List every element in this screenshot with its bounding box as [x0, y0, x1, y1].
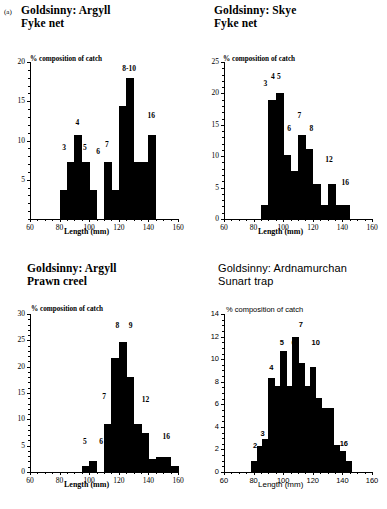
y-tick-major	[221, 382, 224, 383]
x-tick-minor	[320, 219, 321, 221]
panel-b-title: Goldsinny: Skye Fyke net	[214, 4, 296, 30]
y-tick-minor	[28, 404, 30, 405]
x-tick-minor	[67, 219, 68, 221]
x-tick-minor	[111, 219, 112, 221]
x-tick-minor	[126, 472, 127, 474]
y-tick-label: 20	[18, 57, 26, 66]
x-tick-minor	[163, 472, 164, 474]
x-tick-minor	[126, 219, 127, 221]
y-tick-minor	[28, 325, 30, 326]
y-tick-major	[221, 62, 224, 63]
y-tick-minor	[28, 125, 30, 126]
x-tick-minor	[328, 472, 329, 474]
x-tick-minor	[305, 219, 306, 221]
bar-annotation: 4	[68, 118, 86, 127]
bar-annotation: 12	[320, 155, 338, 164]
x-tick-minor	[52, 219, 53, 221]
x-tick-label: 120	[107, 223, 131, 232]
panel-d-title: Goldsinny: Ardnamurchan Sunart trap	[218, 262, 347, 288]
bar-annotation: 4	[262, 363, 280, 372]
x-tick-minor	[291, 219, 292, 221]
x-tick-minor	[276, 219, 277, 221]
x-tick-major	[254, 472, 255, 475]
x-tick-minor	[365, 472, 366, 474]
y-tick-label: 0	[215, 467, 219, 476]
x-tick-label: 60	[18, 223, 42, 232]
x-tick-major	[224, 472, 225, 475]
x-tick-minor	[97, 219, 98, 221]
y-tick-label: 12	[211, 332, 219, 341]
x-tick-label: 100	[77, 476, 101, 485]
y-tick-major	[221, 359, 224, 360]
bar-annotation: 6	[285, 338, 303, 347]
y-tick-minor	[28, 156, 30, 157]
x-tick-label: 140	[136, 223, 160, 232]
y-tick-label: 15	[18, 96, 26, 105]
bar-annotation: 3	[55, 143, 73, 152]
panel-b-plot: 051015202560801001201401603456781216	[224, 62, 372, 219]
x-tick-minor	[37, 472, 38, 474]
chart-panel-d: Goldsinny: Ardnamurchan Sunart trap % co…	[196, 258, 387, 509]
y-tick-major	[27, 141, 30, 142]
x-tick-label: 140	[330, 223, 354, 232]
x-tick-minor	[171, 219, 172, 221]
x-tick-major	[283, 472, 284, 475]
y-tick-major	[27, 419, 30, 420]
x-tick-label: 60	[212, 476, 236, 485]
x-tick-major	[60, 472, 61, 475]
y-tick-minor	[28, 335, 30, 336]
y-tick-major	[27, 446, 30, 447]
x-tick-label: 80	[48, 476, 72, 485]
x-tick-minor	[298, 219, 299, 221]
x-tick-minor	[291, 472, 292, 474]
x-tick-minor	[357, 219, 358, 221]
x-tick-minor	[134, 472, 135, 474]
y-tick-minor	[28, 188, 30, 189]
y-tick-label: 30	[18, 309, 26, 318]
y-tick-minor	[28, 388, 30, 389]
y-tick-minor	[222, 144, 224, 145]
x-tick-minor	[82, 472, 83, 474]
x-tick-minor	[141, 219, 142, 221]
y-tick-major	[221, 449, 224, 450]
bar-annotation: 16	[157, 432, 175, 441]
x-tick-minor	[350, 472, 351, 474]
y-tick-label: 4	[215, 422, 219, 431]
x-tick-minor	[171, 472, 172, 474]
y-tick-minor	[28, 409, 30, 410]
x-tick-minor	[335, 472, 336, 474]
x-tick-major	[224, 219, 225, 222]
y-tick-major	[221, 125, 224, 126]
y-tick-major	[27, 314, 30, 315]
x-tick-minor	[268, 219, 269, 221]
x-tick-minor	[335, 219, 336, 221]
x-tick-minor	[74, 472, 75, 474]
y-tick-minor	[28, 398, 30, 399]
y-tick-minor	[28, 377, 30, 378]
y-tick-major	[221, 188, 224, 189]
y-tick-major	[27, 340, 30, 341]
y-tick-minor	[222, 213, 224, 214]
y-tick-label: 0	[21, 467, 25, 476]
x-tick-minor	[52, 472, 53, 474]
y-tick-major	[221, 314, 224, 315]
y-tick-minor	[222, 200, 224, 201]
panel-c-title: Goldsinny: Argyll Prawn creel	[27, 262, 117, 288]
y-tick-minor	[222, 106, 224, 107]
x-tick-minor	[156, 472, 157, 474]
x-tick-major	[30, 219, 31, 222]
histogram-bar	[89, 461, 97, 472]
y-tick-minor	[222, 348, 224, 349]
x-tick-minor	[97, 472, 98, 474]
panel-a-title: Goldsinny: Argyll Fyke net	[21, 4, 111, 30]
x-tick-minor	[357, 472, 358, 474]
y-tick-minor	[28, 414, 30, 415]
x-tick-label: 80	[48, 223, 72, 232]
y-tick-label: 5	[215, 183, 219, 192]
x-tick-label: 160	[166, 476, 190, 485]
y-tick-minor	[222, 119, 224, 120]
x-tick-label: 80	[242, 223, 266, 232]
chart-panel-b: Goldsinny: Skye Fyke net % composition o…	[196, 0, 387, 254]
x-tick-major	[148, 472, 149, 475]
x-tick-major	[342, 472, 343, 475]
